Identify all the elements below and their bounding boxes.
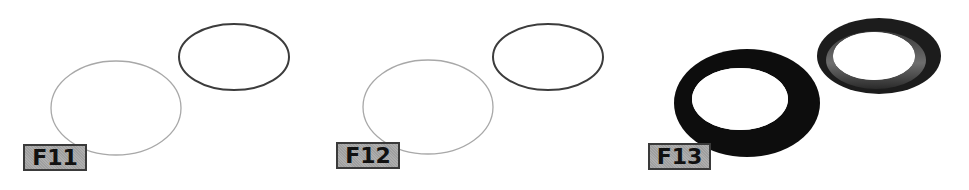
- panel-label-f13: F13: [648, 143, 711, 170]
- figure-canvas: [0, 0, 969, 190]
- front-thick-ring: [674, 49, 820, 157]
- back-beveled-ring: [817, 18, 941, 94]
- panel-label-f12: F12: [336, 142, 400, 169]
- panel-f13: [674, 18, 941, 157]
- back-ellipse-outline: [493, 24, 603, 90]
- panel-f11: [51, 24, 289, 155]
- figure-strip: F11 F12 F13: [0, 0, 969, 190]
- front-ellipse-outline: [363, 60, 493, 154]
- back-ellipse-outline: [179, 24, 289, 90]
- front-ellipse-outline: [51, 61, 181, 155]
- panel-label-f11: F11: [23, 144, 87, 171]
- panel-f12: [363, 24, 603, 154]
